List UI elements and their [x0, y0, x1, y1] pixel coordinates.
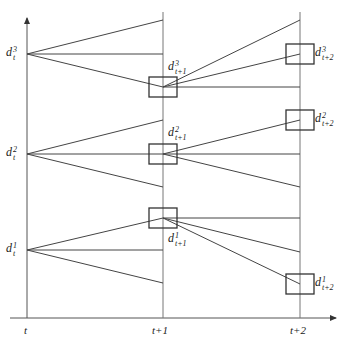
transition-line-t1-1-2 — [163, 154, 300, 187]
x-tick-t-plus-1: t+1 — [152, 324, 168, 336]
label-d-t1-2: d2t+1 — [168, 126, 187, 141]
transition-line-t-2-0 — [27, 218, 163, 250]
transition-line-t-0-0 — [27, 20, 163, 54]
transition-line-t-1-0 — [27, 120, 163, 154]
label-d-t2-2: d2t+2 — [315, 112, 334, 127]
label-d-t-1: d1t — [6, 242, 17, 257]
label-d-t-3: d3t — [6, 46, 17, 61]
label-d-t2-3: d3t+2 — [315, 46, 334, 61]
label-d-t-2: d2t — [6, 146, 17, 161]
transition-line-t1-2-2 — [163, 218, 300, 284]
transition-line-t-0-2 — [27, 54, 163, 87]
transition-line-t1-0-0 — [163, 20, 300, 87]
label-d-t2-1: d1t+2 — [315, 276, 334, 291]
transition-line-t-1-2 — [27, 154, 163, 187]
x-tick-t-plus-2: t+2 — [290, 324, 306, 336]
x-tick-t: t — [24, 324, 27, 336]
state-transition-diagram: d3t d2t d1t d3t+1 d2t+1 d1t+1 d3t+2 d2t+… — [0, 0, 344, 343]
label-d-t1-3: d3t+1 — [168, 60, 187, 75]
label-d-t1-1: d1t+1 — [168, 232, 187, 247]
diagram-lines — [0, 0, 344, 343]
transition-line-t-2-2 — [27, 250, 163, 283]
